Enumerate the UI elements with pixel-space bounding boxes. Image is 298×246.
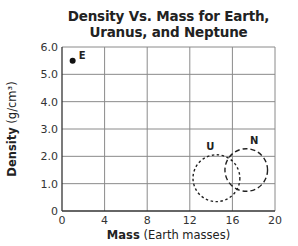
y-tick-label: 2.0: [41, 150, 59, 163]
y-tick-label: 4.0: [41, 96, 59, 109]
neptune-label: N: [250, 135, 258, 146]
earth-label: E: [79, 50, 86, 61]
y-tick-label: 6.0: [41, 41, 59, 54]
y-tick-label: 1.0: [41, 178, 59, 191]
x-tick-label: 8: [144, 214, 151, 227]
x-tick-label: 16: [225, 214, 239, 227]
grid-lines: [62, 47, 275, 211]
earth-point: [70, 58, 76, 64]
y-tick-label: 5.0: [41, 68, 59, 81]
plot-area: 01.02.03.04.05.06.0048121620 EUN: [0, 0, 298, 246]
tick-labels: 01.02.03.04.05.06.0048121620: [41, 41, 283, 227]
x-tick-label: 12: [183, 214, 197, 227]
x-tick-label: 0: [59, 214, 66, 227]
x-tick-label: 4: [101, 214, 108, 227]
y-tick-label: 0: [51, 205, 58, 218]
data-points: EUN: [70, 50, 268, 202]
y-tick-label: 3.0: [41, 123, 59, 136]
x-tick-label: 20: [268, 214, 282, 227]
uranus-label: U: [206, 141, 214, 152]
neptune-circle: [225, 149, 268, 192]
